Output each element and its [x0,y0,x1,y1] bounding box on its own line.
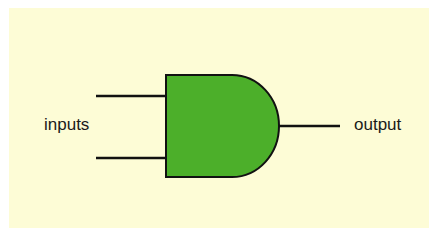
output-label: output [354,116,401,133]
and-gate-body [166,75,279,177]
inputs-label: inputs [44,116,89,133]
